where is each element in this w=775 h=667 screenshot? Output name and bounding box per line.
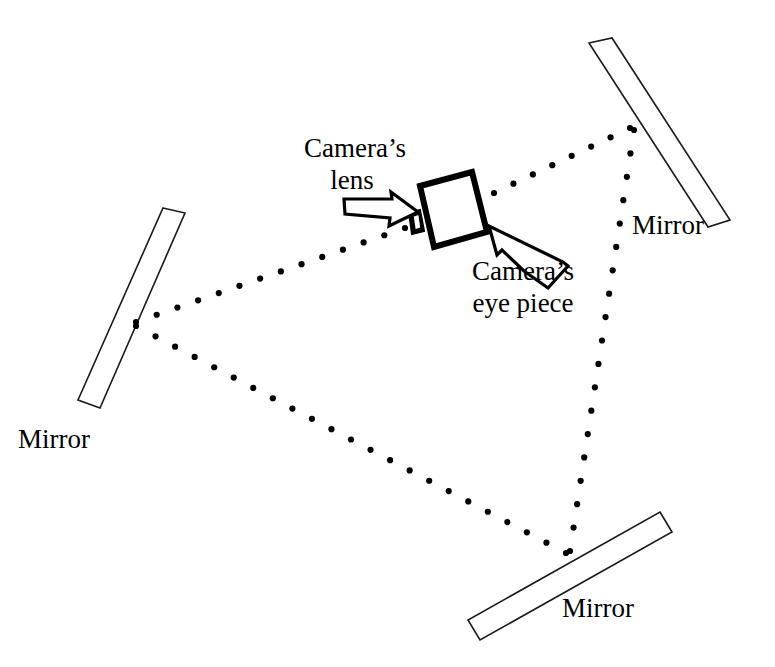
ray-dot bbox=[407, 467, 413, 473]
ray-dot bbox=[174, 304, 180, 310]
camera-group bbox=[409, 172, 487, 247]
ray-dot bbox=[504, 519, 510, 525]
camera-lens-label-line1: Camera’s bbox=[304, 133, 406, 163]
arrow-camera-lens-icon bbox=[344, 192, 418, 226]
ray-dot bbox=[606, 291, 612, 297]
ray-dot bbox=[211, 364, 217, 370]
ray-dot bbox=[613, 244, 619, 250]
ray-dot bbox=[367, 447, 373, 453]
ray-dot bbox=[340, 247, 346, 253]
ray-dot bbox=[152, 333, 158, 339]
ray-dot bbox=[588, 408, 594, 414]
ray-dot bbox=[381, 232, 387, 238]
ray-dot bbox=[524, 529, 530, 535]
ray-dot bbox=[588, 143, 594, 149]
diagram-canvas: Camera’s lens Camera’s eye piece Mirror … bbox=[0, 0, 775, 667]
ray-dot bbox=[574, 501, 580, 507]
camera-eyepiece-label-line1: Camera’s bbox=[472, 256, 574, 286]
ray-left-mirror-to-bottom-mirror bbox=[133, 323, 569, 556]
ray-dot bbox=[543, 540, 549, 546]
ray-dot bbox=[231, 374, 237, 380]
ray-dot bbox=[298, 261, 304, 267]
ray-dot bbox=[585, 431, 591, 437]
ray-dot bbox=[569, 153, 575, 159]
mirror-top-right[interactable] bbox=[589, 38, 730, 227]
ray-dot bbox=[154, 312, 160, 318]
ray-dot bbox=[570, 525, 576, 531]
ray-dot bbox=[257, 276, 263, 282]
ray-dot bbox=[578, 478, 584, 484]
ray-dot bbox=[426, 478, 432, 484]
ray-dot bbox=[387, 457, 393, 463]
ray-dot bbox=[607, 134, 613, 140]
ray-dot bbox=[402, 225, 408, 231]
ray-dot bbox=[195, 297, 201, 303]
ray-dot bbox=[599, 337, 605, 343]
ray-dot bbox=[627, 125, 633, 131]
ray-bottom-mirror-to-top-right-mirror bbox=[567, 127, 637, 554]
ray-dot bbox=[446, 488, 452, 494]
ray-dot bbox=[328, 426, 334, 432]
ray-dot bbox=[289, 405, 295, 411]
ray-dot bbox=[278, 268, 284, 274]
ray-dot bbox=[581, 454, 587, 460]
ray-dot bbox=[216, 290, 222, 296]
ray-dot bbox=[624, 174, 630, 180]
mirror-top-right-label: Mirror bbox=[632, 210, 704, 240]
ray-dot bbox=[510, 181, 516, 187]
mirror-bottom-label: Mirror bbox=[562, 593, 634, 623]
ray-dot bbox=[530, 171, 536, 177]
optics-diagram: Camera’s lens Camera’s eye piece Mirror … bbox=[0, 0, 775, 667]
mirror-left-label: Mirror bbox=[18, 424, 90, 454]
camera-eyepiece-label-line2: eye piece bbox=[472, 288, 573, 318]
light-ray-paths bbox=[133, 125, 637, 556]
ray-dot bbox=[610, 267, 616, 273]
ray-dot bbox=[491, 190, 497, 196]
ray-dot bbox=[309, 416, 315, 422]
ray-dot bbox=[620, 197, 626, 203]
ray-dot bbox=[627, 150, 633, 156]
ray-dot bbox=[602, 314, 608, 320]
ray-dot bbox=[236, 283, 242, 289]
ray-dot bbox=[319, 254, 325, 260]
ray-top-right-mirror-to-camera bbox=[491, 125, 633, 196]
ray-dot bbox=[465, 498, 471, 504]
ray-dot bbox=[250, 385, 256, 391]
ray-dot bbox=[617, 220, 623, 226]
mirror-left[interactable] bbox=[78, 208, 185, 408]
ray-dot bbox=[567, 548, 573, 554]
ray-dot bbox=[592, 384, 598, 390]
ray-dot bbox=[270, 395, 276, 401]
camera-lens-aperture-icon bbox=[413, 214, 421, 230]
ray-dot bbox=[348, 436, 354, 442]
ray-dot bbox=[549, 162, 555, 168]
ray-dot bbox=[485, 509, 491, 515]
ray-dot bbox=[361, 239, 367, 245]
ray-dot bbox=[192, 354, 198, 360]
ray-camera-lens-to-left-mirror bbox=[133, 225, 408, 325]
camera-body[interactable] bbox=[420, 172, 487, 247]
ray-dot bbox=[172, 344, 178, 350]
ray-dot bbox=[595, 361, 601, 367]
ray-dot bbox=[133, 323, 139, 329]
camera-lens-label-line2: lens bbox=[330, 165, 374, 195]
